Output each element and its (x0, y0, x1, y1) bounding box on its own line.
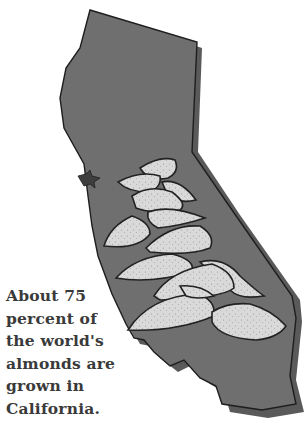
caption-line: the world's (6, 330, 136, 353)
caption-text: About 75 percent of the world's almonds … (6, 285, 136, 420)
caption-line: percent of (6, 308, 136, 331)
caption-line: California. (6, 398, 136, 421)
caption-line: almonds are (6, 353, 136, 376)
caption-line: About 75 (6, 285, 136, 308)
caption-line: grown in (6, 375, 136, 398)
